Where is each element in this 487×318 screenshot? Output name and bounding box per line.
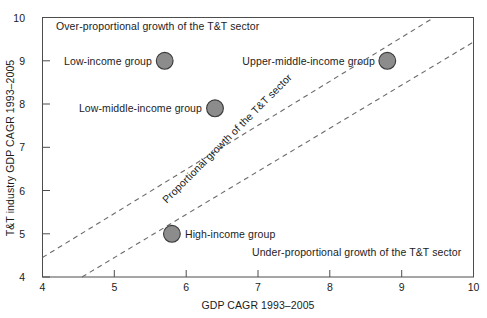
y-tick-label-4: 4 (5, 271, 25, 283)
x-tick-label-6: 6 (183, 281, 189, 293)
x-tick-label-8: 8 (327, 281, 333, 293)
y-tick-label-10: 10 (5, 12, 25, 24)
y-tick-label-7: 7 (5, 141, 25, 153)
data-label-low-middle-income-group: Low-middle-income group (0, 102, 202, 114)
chart-figure: T&T industry GDP CAGR 1993–2005 GDP CAGR… (0, 0, 487, 318)
x-tick-label-4: 4 (40, 281, 46, 293)
data-label-high-income-group: High-income group (185, 228, 275, 240)
x-tick-label-10: 10 (468, 281, 480, 293)
y-tick-label-6: 6 (5, 185, 25, 197)
x-tick-label-5: 5 (111, 281, 117, 293)
annotation-over-proportional-growth: Over-proportional growth of the T&T sect… (56, 20, 259, 32)
annotation-under-proportional-growth: Under-proportional growth of the T&T sec… (252, 246, 461, 258)
data-point-upper-middle-income-group[interactable] (379, 52, 396, 69)
data-label-upper-middle-income-group: Upper-middle-income group (160, 55, 375, 67)
x-tick-label-9: 9 (399, 281, 405, 293)
x-tick-label-7: 7 (255, 281, 261, 293)
x-axis-title: GDP CAGR 1993–2005 (42, 299, 474, 311)
data-label-low-income-group: Low-income group (0, 55, 152, 67)
data-point-low-middle-income-group[interactable] (207, 100, 224, 117)
data-point-high-income-group[interactable] (164, 225, 181, 242)
y-tick-label-5: 5 (5, 228, 25, 240)
scatter-plot-canvas (0, 0, 487, 318)
